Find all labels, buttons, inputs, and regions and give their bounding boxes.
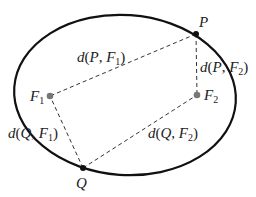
focus-f2-label: F2 [203, 87, 218, 105]
comma: , [222, 59, 230, 75]
paren-close: ) [120, 49, 125, 66]
segment-p-f2 [196, 34, 197, 95]
paren-close: ) [53, 125, 58, 142]
point-name: P [89, 49, 99, 65]
focus-f1-marker [47, 93, 54, 100]
focus-f2-marker [194, 92, 201, 99]
paren-close: ) [243, 59, 248, 76]
point-p-label: P [198, 14, 208, 30]
ellipse-foci-diagram: P Q F1 F2 d(P, F1) d(P, F2) d(Q, F1) d(Q… [0, 0, 256, 197]
point-name: Q [161, 125, 172, 141]
focus-f1-label: F1 [29, 88, 44, 106]
comma: , [31, 125, 39, 141]
point-p-marker [193, 31, 199, 37]
point-name: P [212, 59, 222, 75]
focus-f2-subscript: 2 [213, 94, 218, 105]
distance-label-p-f1: d(P, F1) [77, 49, 125, 67]
distance-label-q-f2: d(Q, F2) [148, 125, 198, 143]
point-q-label: Q [76, 175, 87, 191]
point-name: Q [21, 125, 32, 141]
focus-f1-subscript: 1 [39, 95, 44, 106]
point-q-marker [80, 165, 86, 171]
comma: , [171, 125, 179, 141]
segment-p-f1 [50, 34, 196, 96]
distance-label-p-f2: d(P, F2) [200, 59, 248, 77]
comma: , [99, 49, 107, 65]
paren-close: ) [193, 125, 198, 142]
distance-label-q-f1: d(Q, F1) [8, 125, 58, 143]
